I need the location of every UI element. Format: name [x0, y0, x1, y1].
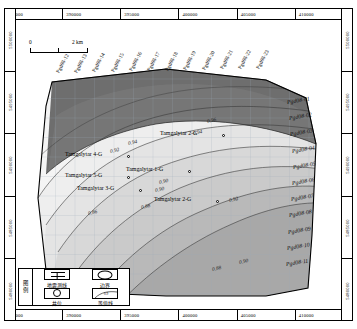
well-label-3: Tamgalytar 2-G — [154, 196, 191, 202]
x-tick-400000: 400000 — [180, 310, 238, 320]
y-tick-label: 5490000 — [345, 156, 350, 173]
x-tick-label: 395000 — [124, 313, 139, 318]
legend-item-contour: 0.9 等值线 — [81, 288, 129, 307]
legend-items: 地震测线 边界 井位 0.9 等值线 — [33, 269, 129, 305]
y-tick-label: 5495000 — [345, 94, 350, 111]
x-axis-bottom: 385000390000395000400000405000410000 — [4, 309, 353, 321]
legend-label-seismic-line: 地震测线 — [47, 281, 67, 288]
scale-bar-label-start: 0 — [29, 39, 32, 45]
scale-bar-tick-end — [87, 48, 88, 53]
y-tick-5500000: 5500000 — [5, 9, 15, 72]
x-tick-label: 390000 — [66, 12, 81, 17]
x-tick-label: 410000 — [299, 12, 314, 17]
x-tick-label: 400000 — [183, 12, 198, 17]
y-tick-5480000: 5480000 — [342, 259, 352, 322]
y-tick-5500000: 5500000 — [342, 9, 352, 72]
y-tick-5485000: 5485000 — [5, 197, 15, 260]
x-axis-top: 385000390000395000400000405000410000 — [4, 8, 353, 20]
y-tick-5480000: 5480000 — [5, 259, 15, 322]
legend-item-well: 井位 — [33, 288, 81, 307]
x-tick-label: 390000 — [66, 313, 81, 318]
scale-bar-line — [30, 52, 88, 53]
x-tick-395000: 395000 — [121, 9, 179, 19]
y-tick-label: 5480000 — [8, 282, 13, 299]
x-tick-405000: 405000 — [238, 9, 296, 19]
scale-bar-label-end: 2 km — [72, 39, 83, 45]
x-tick-label: 405000 — [241, 12, 256, 17]
y-tick-5490000: 5490000 — [342, 134, 352, 197]
scale-bar-tick-mid — [58, 48, 59, 53]
x-tick-label: 405000 — [241, 313, 256, 318]
map-legend: 图 例 地震测线 边界 井位 0.9 — [18, 268, 130, 306]
y-tick-label: 5500000 — [8, 31, 13, 48]
y-tick-label: 5480000 — [345, 282, 350, 299]
legend-title: 图 例 — [19, 269, 33, 305]
legend-item-seismic-line: 地震测线 — [33, 269, 81, 288]
well-icon — [44, 288, 70, 299]
x-tick-label: 410000 — [299, 313, 314, 318]
contour-map-figure: 385000390000395000400000405000410000 385… — [0, 0, 357, 329]
y-tick-5495000: 5495000 — [342, 72, 352, 135]
well-label-4: Tamgalytar 3-G — [77, 185, 114, 191]
y-tick-label: 5485000 — [345, 219, 350, 236]
legend-title-char-2: 例 — [23, 287, 28, 294]
y-tick-5495000: 5495000 — [5, 72, 15, 135]
contour-icon: 0.9 — [92, 288, 118, 299]
y-tick-label: 5490000 — [8, 156, 13, 173]
x-tick-label: 395000 — [124, 12, 139, 17]
legend-label-well: 井位 — [52, 299, 62, 306]
y-axis-right: 55000005495000549000054850005480000 — [341, 8, 353, 321]
scale-bar-tick-start — [30, 48, 31, 53]
well-label-5: Tamgalytar 4-G — [65, 151, 102, 157]
y-tick-5490000: 5490000 — [5, 134, 15, 197]
x-tick-390000: 390000 — [63, 310, 121, 320]
y-tick-label: 5485000 — [8, 219, 13, 236]
y-tick-5485000: 5485000 — [342, 197, 352, 260]
x-tick-label: 400000 — [183, 313, 198, 318]
x-tick-405000: 405000 — [238, 310, 296, 320]
x-tick-400000: 400000 — [180, 9, 238, 19]
boundary-icon — [92, 269, 118, 280]
seismic-line-icon — [44, 269, 70, 280]
well-label-1: Tamgalytar 1-G — [126, 166, 163, 172]
x-tick-395000: 395000 — [121, 310, 179, 320]
legend-label-contour: 等值线 — [98, 299, 113, 306]
svg-text:0.9: 0.9 — [104, 292, 109, 296]
y-axis-left: 55000005495000549000054850005480000 — [4, 8, 16, 321]
well-label-6: Tamgalytar 5-G — [65, 172, 102, 178]
y-tick-label: 5495000 — [8, 94, 13, 111]
x-tick-390000: 390000 — [63, 9, 121, 19]
legend-title-char-1: 图 — [23, 280, 28, 287]
y-tick-label: 5500000 — [345, 31, 350, 48]
legend-label-boundary: 边界 — [100, 281, 110, 288]
legend-item-boundary: 边界 — [81, 269, 129, 288]
